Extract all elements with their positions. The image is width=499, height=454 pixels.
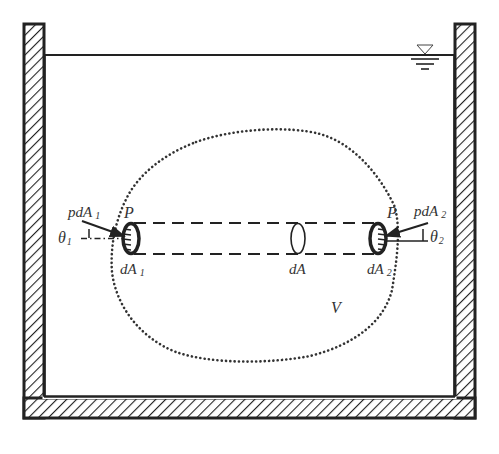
label-area-left: dA1 [120, 261, 145, 278]
left-wall [24, 24, 44, 418]
label-point-right: P [386, 204, 397, 221]
control-volume-boundary [112, 129, 398, 361]
label-area-mid: dA [289, 261, 307, 277]
label-force-right: pdA2 [413, 203, 446, 220]
label-angle-right: θ2 [430, 228, 444, 246]
area-dA1-icon [123, 224, 139, 254]
label-force-left: pdA1 [67, 204, 100, 221]
label-volume: V [331, 299, 343, 316]
hydrostatics-diagram: pdA1 P θ1 dA1 P pdA2 θ2 dA2 dA V [0, 0, 499, 454]
area-dA-icon [291, 224, 305, 254]
container [24, 24, 475, 418]
elementary-prism [134, 223, 380, 254]
label-point-left: P [123, 204, 134, 221]
label-angle-left: θ1 [58, 229, 72, 247]
area-dA2-icon [370, 224, 386, 254]
bottom-wall [24, 398, 475, 418]
right-wall [455, 24, 475, 418]
force-arrow-right [386, 223, 428, 241]
label-area-right: dA2 [367, 261, 392, 278]
free-surface-icon [411, 45, 439, 69]
